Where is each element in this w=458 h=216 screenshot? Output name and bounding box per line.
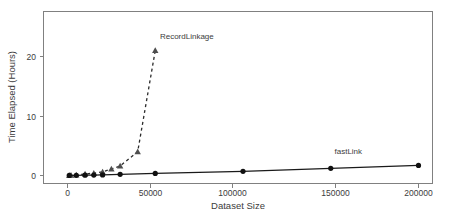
plot-frame (44, 12, 433, 184)
data-point (328, 166, 333, 171)
data-point (74, 173, 79, 178)
data-point (416, 163, 421, 168)
data-point (100, 172, 105, 177)
data-point (108, 166, 114, 172)
data-point (135, 149, 141, 155)
chart-container: 0 10 20 Time Elapsed (Hours) 0 50000 100… (0, 0, 458, 216)
y-axis-title: Time Elapsed (Hours) (6, 51, 17, 143)
data-point (118, 172, 123, 177)
series-recordlinkage (66, 47, 158, 178)
x-tick-label-50000: 50000 (139, 188, 163, 198)
x-axis-title: Dataset Size (211, 200, 265, 211)
data-point (153, 171, 158, 176)
x-tick-label-100000: 100000 (218, 188, 247, 198)
data-point (82, 173, 87, 178)
series-label-fastlink: fastLink (335, 147, 364, 156)
y-tick-label-10: 10 (27, 112, 37, 122)
x-axis: 0 50000 100000 150000 200000 Dataset Siz… (65, 184, 433, 212)
y-axis-ticks (40, 57, 44, 176)
series-label-recordlinkage: RecordLinkage (160, 32, 214, 41)
data-point (152, 47, 158, 53)
y-tick-label-0: 0 (31, 171, 36, 181)
x-tick-label-150000: 150000 (321, 188, 350, 198)
data-point (91, 172, 96, 177)
time-vs-dataset-size-line-chart: 0 10 20 Time Elapsed (Hours) 0 50000 100… (0, 0, 458, 216)
x-tick-label-200000: 200000 (404, 188, 433, 198)
y-tick-label-20: 20 (27, 52, 37, 62)
data-point (67, 173, 72, 178)
x-axis-ticks (68, 184, 419, 188)
y-axis: 0 10 20 Time Elapsed (Hours) (6, 51, 44, 181)
x-tick-label-0: 0 (65, 188, 70, 198)
data-point (240, 169, 245, 174)
